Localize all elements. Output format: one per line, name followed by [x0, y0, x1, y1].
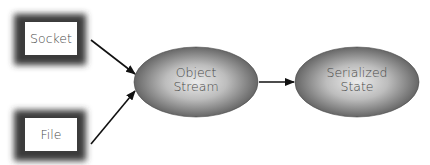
serialized-state-label-line-2: State	[340, 80, 373, 94]
object-stream-label-line-1: Object	[176, 66, 217, 80]
serialized-state-label: Serialized State	[312, 62, 402, 98]
object-stream-label: Object Stream	[156, 62, 236, 98]
object-stream-label-line-2: Stream	[173, 80, 218, 94]
file-label: File	[25, 118, 77, 151]
socket-label: Socket	[25, 22, 77, 55]
arrow-socket-to-object-stream	[91, 40, 135, 74]
arrow-file-to-object-stream	[91, 91, 135, 144]
serialized-state-label-line-1: Serialized	[326, 66, 387, 80]
